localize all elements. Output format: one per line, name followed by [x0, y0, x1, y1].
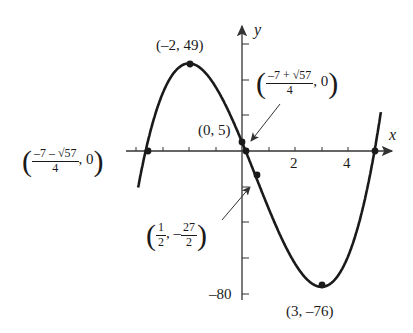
point-root-5 — [372, 148, 379, 155]
label-inflection: (12, –272) — [146, 220, 207, 250]
point-yint — [239, 139, 246, 146]
point-root-minus — [145, 148, 152, 155]
x-tick-label-4: 4 — [343, 156, 351, 171]
y-axis-label: y — [254, 22, 261, 38]
pointer-inflection — [222, 187, 250, 220]
label-root-minus: (–7 – √574, 0) — [22, 146, 104, 176]
point-min — [319, 282, 326, 289]
point-root-plus — [243, 148, 250, 155]
point-inflection — [254, 172, 261, 179]
x-axis-label: x — [389, 127, 396, 143]
point-max — [187, 61, 194, 68]
y-ticks — [242, 44, 249, 294]
label-max: (–2, 49) — [156, 38, 204, 53]
x-tick-label-2: 2 — [290, 156, 298, 171]
y-tick-label-neg80: –80 — [209, 287, 232, 302]
label-root-plus: (–7 + √574, 0) — [256, 68, 338, 98]
label-min: (3, –76) — [286, 304, 334, 319]
pointer-root-plus — [251, 104, 280, 141]
label-yint: (0, 5) — [198, 123, 231, 138]
